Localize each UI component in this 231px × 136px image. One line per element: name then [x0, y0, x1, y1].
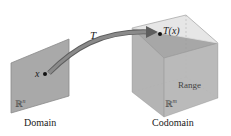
codomain-label: Codomain [152, 117, 194, 128]
range-label: Range [178, 80, 201, 90]
domain-space-exponent: n [22, 98, 25, 104]
point-tx [158, 32, 162, 36]
domain-space-label: ℝn [15, 98, 25, 109]
codomain-space-label: ℝm [165, 98, 177, 109]
codomain-space-exponent: m [172, 98, 176, 104]
domain-label: Domain [24, 117, 56, 128]
point-tx-label: T(x) [163, 25, 180, 36]
point-x [43, 72, 47, 76]
mapping-label: T [90, 29, 96, 41]
point-x-label: x [35, 68, 39, 79]
